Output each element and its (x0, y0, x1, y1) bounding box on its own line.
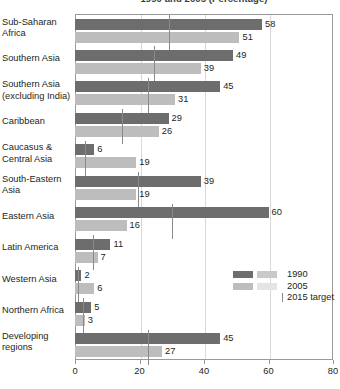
bar-value-label: 39 (204, 175, 214, 187)
bar-row: 39 (75, 176, 333, 187)
bar-row: 19 (75, 189, 333, 200)
category-label: Southern Asia (2, 53, 72, 64)
category-label-line: Eastern Asia (2, 211, 72, 222)
category-label: Sub-SaharanAfrica (2, 17, 72, 39)
bar-2005 (75, 220, 127, 231)
bar-value-label: 49 (236, 49, 246, 61)
bar-row: 45 (75, 333, 333, 344)
chart-title: 1990 and 2005 (Percentage) (75, 0, 333, 4)
category-label: Latin America (2, 242, 72, 253)
category-label-line: Africa (2, 28, 72, 39)
category-label-line: Sub-Saharan (2, 17, 72, 28)
bar-value-label: 51 (242, 31, 252, 43)
bar-value-label: 16 (130, 219, 140, 231)
target-2015-tick (85, 141, 86, 176)
bar-value-label: 6 (97, 143, 102, 155)
bar-2005 (75, 189, 136, 200)
bar-row: 27 (75, 346, 333, 357)
x-axis-tick (204, 360, 205, 364)
legend-swatch-2005-left (233, 283, 253, 290)
target-2015-tick (78, 267, 79, 302)
bar-chart: 1990 and 2005 (Percentage) Sub-SaharanAf… (0, 0, 340, 389)
x-axis-tick (333, 360, 334, 364)
bar-row: 39 (75, 63, 333, 74)
category-label: Eastern Asia (2, 211, 72, 222)
bar-value-label: 7 (101, 251, 106, 263)
target-2015-tick (148, 78, 149, 113)
bar-row: 16 (75, 220, 333, 231)
x-axis-tick-label: 60 (263, 366, 273, 376)
bar-row: 58 (75, 19, 333, 30)
bar-2005 (75, 32, 239, 43)
category-label: South-EasternAsia (2, 174, 72, 196)
category-label-line: regions (2, 342, 72, 353)
bar-row: 3 (75, 315, 333, 326)
bar-2005 (75, 126, 159, 137)
bar-2005 (75, 94, 175, 105)
x-axis-tick (75, 360, 76, 364)
legend-swatch-1990-right (257, 271, 277, 278)
bar-row: 11 (75, 239, 333, 250)
category-label-line: (excluding India) (2, 91, 72, 102)
legend-label-2015-target: 2015 target (287, 292, 334, 304)
bar-value-label: 29 (172, 112, 182, 124)
bar-row: 49 (75, 50, 333, 61)
bar-value-label: 6 (97, 282, 102, 294)
category-label: Northern Africa (2, 305, 72, 316)
category-label-line: Central Asia (2, 154, 72, 165)
target-2015-tick (154, 46, 155, 81)
bar-row: 7 (75, 252, 333, 263)
x-axis-tick-label: 0 (72, 366, 77, 376)
legend-label-1990: 1990 (287, 269, 308, 281)
bar-2005 (75, 346, 162, 357)
x-axis-tick-label: 80 (328, 366, 338, 376)
bar-value-label: 19 (139, 188, 149, 200)
x-axis-tick-label: 20 (134, 366, 144, 376)
x-axis-tick-label: 40 (199, 366, 209, 376)
target-2015-tick (172, 204, 173, 239)
target-2015-tick (122, 109, 123, 144)
bar-row: 26 (75, 126, 333, 137)
category-label-line: South-Eastern (2, 174, 72, 185)
bar-value-label: 11 (113, 238, 123, 250)
category-label: Developingregions (2, 331, 72, 353)
legend-swatch-1990-left (233, 271, 253, 278)
bar-value-label: 26 (162, 125, 172, 137)
x-axis-tick (269, 360, 270, 364)
bar-value-label: 5 (94, 301, 99, 313)
category-label: Caucasus &Central Asia (2, 142, 72, 164)
bar-value-label: 27 (165, 345, 175, 357)
target-2015-tick (138, 172, 139, 207)
bar-2005 (75, 252, 98, 263)
bar-row: 51 (75, 32, 333, 43)
category-label-line: Asia (2, 185, 72, 196)
bar-row: 19 (75, 157, 333, 168)
legend-swatch-2005-right (257, 283, 277, 290)
category-label-line: Western Asia (2, 274, 72, 285)
legend-tick-2015-icon (282, 293, 283, 302)
bar-value-label: 2 (84, 269, 89, 281)
category-label-line: Caribbean (2, 116, 72, 127)
bar-value-label: 45 (223, 332, 233, 344)
category-label-line: Caucasus & (2, 142, 72, 153)
bar-value-label: 60 (272, 206, 282, 218)
bar-value-label: 31 (178, 93, 188, 105)
category-label-line: Southern Asia (2, 79, 72, 90)
legend-label-2005: 2005 (287, 281, 308, 293)
category-label-line: Northern Africa (2, 305, 72, 316)
category-label: Southern Asia(excluding India) (2, 79, 72, 101)
bar-value-label: 58 (265, 18, 275, 30)
bar-value-label: 45 (223, 80, 233, 92)
category-label-line: Southern Asia (2, 53, 72, 64)
bar-value-label: 3 (88, 314, 93, 326)
bar-row: 31 (75, 94, 333, 105)
category-label: Caribbean (2, 116, 72, 127)
bar-2005 (75, 63, 201, 74)
target-2015-tick (83, 298, 84, 333)
bar-value-label: 19 (139, 156, 149, 168)
bar-row: 45 (75, 81, 333, 92)
category-label-line: Latin America (2, 242, 72, 253)
category-label-line: Developing (2, 331, 72, 342)
bar-row: 29 (75, 113, 333, 124)
bar-row: 6 (75, 144, 333, 155)
